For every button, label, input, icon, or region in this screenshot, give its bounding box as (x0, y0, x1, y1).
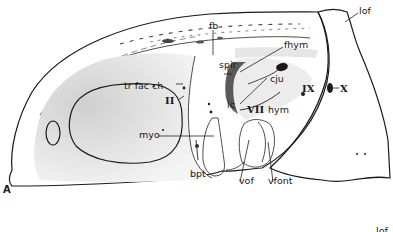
label-vfont: vfont (268, 175, 293, 186)
anatomical-figure: fb lof fhym spir tr fac ch cju IX X II l… (0, 0, 393, 232)
label-spir: spir (219, 59, 237, 70)
label-cju: cju (270, 73, 284, 84)
label-fhym: fhym (284, 39, 308, 50)
ventral-fontanelle-region (226, 120, 275, 171)
label-lc: lc (227, 99, 235, 110)
orbit-region (34, 53, 212, 182)
label-IX: IX (302, 83, 315, 94)
label-tr-fac-ch: tr fac ch (124, 80, 163, 91)
label-fb: fb (209, 20, 218, 31)
label-bpt: bpt (190, 168, 206, 179)
label-hym: hym (268, 104, 289, 115)
panel-label-A: A (3, 184, 11, 195)
label-VII: VII (246, 104, 264, 115)
label-next-panel-lof: lof (376, 225, 388, 232)
label-vof: vof (239, 175, 254, 186)
label-II: II (165, 95, 175, 106)
label-X: X (340, 83, 348, 94)
label-myo: myo (139, 129, 160, 140)
label-lof: lof (359, 5, 371, 16)
